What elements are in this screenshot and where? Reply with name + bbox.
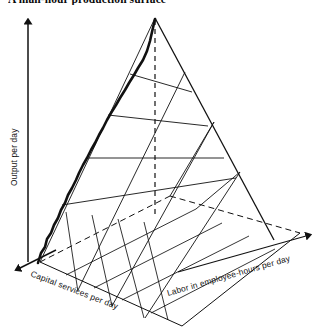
base-hidden-right (170, 196, 300, 233)
base-grid-line (144, 222, 168, 320)
surface-mesh-line (145, 172, 240, 318)
output-axis-label: Output per day (9, 128, 19, 186)
surface-mesh-capital (62, 74, 236, 205)
surface-right-edge (155, 18, 274, 240)
base-grid-line (66, 212, 78, 292)
figure-canvas: Output per day Capital services per day … (0, 0, 318, 328)
surface-mesh-line (108, 115, 208, 126)
base-hidden-left (40, 196, 170, 262)
surface-mesh-line (196, 172, 240, 209)
capital-axis-label: Capital services per day (29, 269, 120, 312)
base-grid-line (66, 209, 196, 275)
surface-right-ridge (155, 18, 274, 240)
surface-mesh-line (78, 72, 185, 290)
base-plane-hidden-edges (40, 196, 300, 262)
surface-mesh-line (62, 178, 236, 205)
labor-axis-label: Labor in employee-hours per day (166, 253, 292, 298)
production-surface-figure: A man-hour production surface (0, 0, 318, 328)
